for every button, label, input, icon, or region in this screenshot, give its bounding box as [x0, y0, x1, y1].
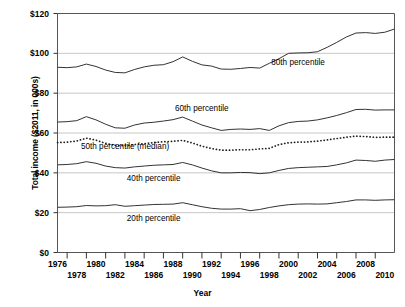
x-axis-tick-label: 1996: [235, 260, 265, 269]
y-axis-tick-label: $20: [15, 209, 49, 218]
y-axis-tick-label: $60: [15, 129, 49, 138]
x-axis-tick-label: 2008: [351, 260, 381, 269]
x-axis-tick-label: 1994: [216, 271, 246, 280]
x-axis-tick-label: 1984: [120, 260, 150, 269]
series-line: [58, 200, 395, 211]
series-label: 40th percentile: [127, 175, 181, 183]
x-axis-tick-label: 2006: [331, 271, 361, 280]
x-axis-tick-label: 1986: [139, 271, 169, 280]
x-axis-tick-label: 2002: [293, 271, 323, 280]
x-axis-title: Year: [0, 288, 405, 298]
x-axis-tick-label: 1990: [177, 271, 207, 280]
grid-lines: [58, 14, 395, 253]
series-line: [58, 29, 395, 73]
income-percentiles-chart: Total income ($2011, in 000s) Year $0$20…: [0, 0, 405, 307]
axis-ticks: [54, 14, 376, 259]
x-axis-tick-label: 2000: [274, 260, 304, 269]
series-line: [58, 159, 395, 173]
x-axis-tick-label: 1982: [100, 271, 130, 280]
series-label: 80th percentile: [271, 59, 325, 67]
series-label: 60th percentile: [175, 105, 229, 113]
x-axis-tick-label: 2010: [370, 271, 400, 280]
x-axis-tick-label: 1976: [43, 260, 73, 269]
series-label: 20th percentile: [127, 215, 181, 223]
y-axis-tick-label: $100: [15, 49, 49, 58]
x-axis-tick-label: 1980: [81, 260, 111, 269]
x-axis-tick-label: 1978: [62, 271, 92, 280]
x-axis-tick-label: 1992: [197, 260, 227, 269]
y-axis-tick-label: $0: [15, 249, 49, 258]
x-axis-tick-label: 2004: [312, 260, 342, 269]
y-axis-tick-label: $80: [15, 89, 49, 98]
series-label: 50th percentile (median): [81, 143, 169, 151]
data-series: [58, 29, 395, 211]
y-axis-tick-label: $120: [15, 10, 49, 19]
x-axis-tick-label: 1998: [254, 271, 284, 280]
y-axis-tick-label: $40: [15, 169, 49, 178]
x-axis-tick-label: 1988: [158, 260, 188, 269]
